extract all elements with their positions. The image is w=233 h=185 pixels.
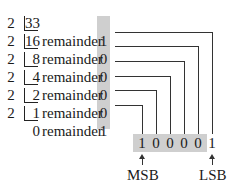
- divisor: 2: [6, 14, 16, 32]
- divisor: 2: [6, 32, 16, 50]
- result-bit: 1: [206, 134, 218, 152]
- lsb-label: LSB: [199, 166, 227, 184]
- connector-line: [115, 32, 213, 33]
- divisor: 2: [6, 86, 16, 104]
- connector-line: [184, 61, 185, 134]
- divisor: 2: [6, 104, 16, 122]
- remainder-label: remainder: [42, 86, 103, 104]
- division-row: 2 2 remainder 0: [0, 86, 120, 104]
- result-bit: 0: [192, 134, 204, 152]
- connector-line: [142, 105, 143, 134]
- connector-line: [115, 76, 171, 77]
- division-row: 2 8 remainder 0: [0, 50, 120, 68]
- divisor: 2: [6, 68, 16, 86]
- connector-line: [170, 76, 171, 134]
- remainder-label: remainder: [42, 32, 103, 50]
- connector-line: [115, 105, 143, 106]
- quotient: 8: [24, 50, 40, 68]
- division-row: 0 remainder 1: [0, 122, 120, 140]
- division-row: 2 1 remainder 0: [0, 104, 120, 122]
- remainder-value: 0: [98, 104, 109, 122]
- remainder-value: 0: [98, 50, 109, 68]
- remainder-value: 0: [98, 68, 109, 86]
- remainder-label: remainder: [42, 122, 103, 140]
- connector-line: [198, 46, 199, 134]
- quotient: 0: [24, 122, 40, 140]
- connector-line: [212, 32, 213, 134]
- lsb-arrow-icon: [212, 158, 213, 165]
- connector-line: [115, 46, 199, 47]
- division-row: 2 16 remainder 1: [0, 32, 120, 50]
- connector-line: [115, 61, 185, 62]
- quotient: 4: [24, 68, 40, 86]
- quotient: 1: [24, 104, 40, 122]
- remainder-label: remainder: [42, 104, 103, 122]
- quotient: 33: [24, 14, 40, 32]
- remainder-value: 0: [98, 86, 109, 104]
- result-bit: 0: [150, 134, 162, 152]
- connector-line: [156, 90, 157, 134]
- result-bit: 1: [136, 134, 148, 152]
- result-bit: 0: [164, 134, 176, 152]
- remainder-label: remainder: [42, 68, 103, 86]
- remainder-label: remainder: [42, 50, 103, 68]
- divisor: 2: [6, 50, 16, 68]
- result-bit: 0: [178, 134, 190, 152]
- remainder-value: 1: [98, 32, 109, 50]
- connector-line: [115, 90, 157, 91]
- division-row: 2 33: [0, 14, 120, 32]
- quotient: 2: [24, 86, 40, 104]
- remainder-value: 1: [98, 122, 109, 140]
- division-row: 2 4 remainder 0: [0, 68, 120, 86]
- msb-label: MSB: [127, 166, 159, 184]
- msb-arrow-icon: [142, 158, 143, 165]
- quotient: 16: [24, 32, 40, 50]
